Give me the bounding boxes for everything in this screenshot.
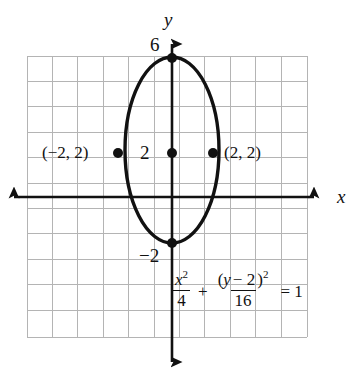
equation-second-numerator-exponent: 2	[263, 268, 269, 280]
y-axis-label: y	[164, 10, 172, 29]
ellipse-graph-figure: x y 6 2 −2 (−2, 2) (2, 2) x2 4 + (y− 2)2…	[0, 0, 357, 374]
equation-plus-operator: +	[198, 280, 208, 302]
tick-label-minus-2: −2	[139, 246, 159, 265]
tick-label-6: 6	[150, 35, 160, 54]
equation-fraction-first: x2 4	[171, 271, 192, 311]
equation-second-minus-term: − 2	[233, 270, 255, 289]
equation-first-denominator: 4	[173, 290, 190, 311]
tick-label-2: 2	[140, 143, 150, 162]
point-left-vertex	[113, 148, 123, 158]
point-top-vertex	[167, 53, 177, 63]
x-axis-label: x	[337, 187, 345, 206]
point-label-right: (2, 2)	[224, 144, 261, 161]
point-bottom-vertex	[167, 238, 177, 248]
equation-second-numerator-var: y	[223, 270, 231, 289]
equation-first-numerator: x2	[171, 271, 192, 290]
equation-second-denominator: 16	[231, 290, 256, 311]
point-center	[167, 148, 177, 158]
equation-second-numerator: (y− 2)2	[214, 271, 273, 290]
equation-first-numerator-var: x	[175, 270, 183, 289]
equation-fraction-second: (y− 2)2 16	[214, 271, 273, 311]
equation-equals-one: = 1	[280, 280, 302, 302]
equation-first-numerator-exponent: 2	[183, 268, 189, 280]
ellipse-equation: x2 4 + (y− 2)2 16 = 1	[168, 271, 303, 311]
point-label-left: (−2, 2)	[42, 144, 88, 161]
coordinate-plane-svg	[0, 0, 357, 374]
point-right-vertex	[208, 148, 218, 158]
